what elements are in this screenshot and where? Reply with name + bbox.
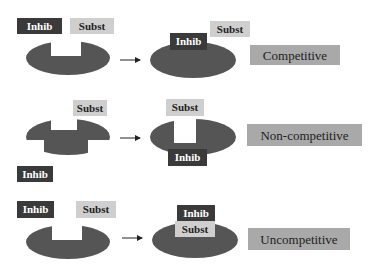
inhibitor-label: Inhib	[27, 20, 53, 32]
substrate-box: Subst	[175, 221, 215, 237]
substrate-box: Subst	[166, 99, 204, 116]
enzyme-inhibition-diagram: Inhib Subst Subst Inhib Competitive	[0, 0, 377, 273]
type-label-box: Competitive	[250, 45, 340, 65]
substrate-label: Subst	[217, 23, 244, 35]
substrate-label: Subst	[172, 101, 199, 113]
substrate-box: Subst	[73, 100, 107, 116]
enzyme-left-uncompetitive	[26, 223, 110, 259]
row-competitive: Inhib Subst Subst Inhib Competitive	[17, 18, 340, 78]
type-label: Competitive	[263, 48, 328, 63]
inhibitor-label: Inhib	[22, 168, 48, 180]
type-label-box: Non-competitive	[247, 124, 362, 146]
inhibitor-label: Inhib	[183, 207, 209, 219]
substrate-label: Subst	[79, 20, 106, 32]
type-label: Uncompetitive	[260, 232, 337, 247]
row-non-competitive: Subst Inhib Subst Inhib Non-competitive	[17, 99, 362, 182]
inhibitor-label: Inhib	[175, 151, 201, 163]
inhibitor-box: Inhib	[17, 201, 54, 218]
enzyme-left-noncompetitive	[26, 118, 112, 162]
substrate-box: Subst	[76, 201, 116, 218]
inhibitor-box: Inhib	[170, 33, 207, 50]
inhibitor-box: Inhib	[17, 18, 62, 34]
inhibitor-label: Inhib	[23, 203, 49, 215]
type-label: Non-competitive	[260, 128, 348, 143]
row-uncompetitive: Inhib Subst Inhib Subst Uncompetitive	[17, 201, 350, 259]
substrate-box: Subst	[70, 18, 114, 34]
inhibitor-box: Inhib	[17, 166, 53, 182]
inhibitor-box: Inhib	[168, 149, 207, 166]
substrate-label: Subst	[182, 223, 209, 235]
inhibitor-box: Inhib	[177, 205, 215, 221]
enzyme-left-competitive	[26, 38, 110, 75]
type-label-box: Uncompetitive	[248, 228, 350, 250]
substrate-box: Subst	[210, 21, 250, 37]
substrate-label: Subst	[77, 102, 104, 114]
substrate-label: Subst	[83, 203, 110, 215]
inhibitor-label: Inhib	[176, 35, 202, 47]
